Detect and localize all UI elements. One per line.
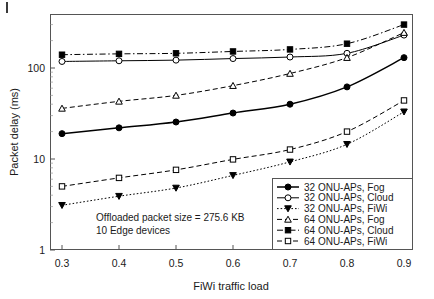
data-point-marker: [59, 184, 64, 189]
data-point-marker: [173, 57, 179, 63]
series-3: [59, 29, 408, 111]
data-point-marker: [116, 125, 122, 131]
data-point-marker: [344, 129, 349, 134]
legend-label: 64 ONU-APs, Cloud: [304, 225, 393, 236]
data-point-marker: [287, 147, 292, 152]
data-point-marker: [287, 101, 293, 107]
legend-label: 32 ONU-APs, FiWi: [304, 203, 387, 214]
data-point-marker: [230, 157, 235, 162]
data-point-marker: [285, 238, 290, 243]
data-point-marker: [173, 51, 178, 56]
x-tick-label: 0.6: [226, 257, 241, 269]
x-tick-label: 0.5: [169, 257, 184, 269]
data-point-marker: [116, 175, 121, 180]
data-point-marker: [230, 49, 235, 54]
figure-container: 110100 0.30.40.50.60.70.80.9 Packet dela…: [0, 0, 434, 299]
y-tick-label: 10: [33, 153, 45, 165]
legend-label: 64 ONU-APs, FiWi: [304, 236, 387, 247]
series-line: [62, 58, 404, 134]
data-point-marker: [287, 159, 294, 165]
annotation-line-2: 10 Edge devices: [96, 225, 170, 236]
data-point-marker: [287, 47, 292, 52]
data-point-marker: [285, 184, 291, 190]
y-tick-label: 100: [27, 62, 45, 74]
legend-label: 64 ONU-APs, Fog: [304, 214, 385, 225]
data-point-marker: [230, 173, 237, 179]
legend-label: 32 ONU-APs, Fog: [304, 182, 385, 193]
data-point-marker: [173, 167, 178, 172]
data-point-marker: [116, 51, 121, 56]
data-point-marker: [344, 84, 350, 90]
data-point-marker: [401, 55, 407, 61]
annotation-line-1: Offloaded packet size = 275.6 KB: [96, 212, 245, 223]
data-point-marker: [230, 110, 236, 116]
data-point-marker: [401, 29, 408, 35]
legend-label: 32 ONU-APs, Cloud: [304, 192, 393, 203]
x-tick-label: 0.7: [283, 257, 298, 269]
data-point-marker: [401, 22, 406, 27]
data-point-marker: [401, 98, 406, 103]
series-4: [59, 22, 406, 58]
series-line: [62, 33, 404, 109]
data-point-marker: [285, 195, 291, 201]
chart-legend[interactable]: 32 ONU-APs, Fog32 ONU-APs, Cloud32 ONU-A…: [273, 179, 413, 250]
data-point-marker: [401, 109, 408, 115]
data-point-marker: [59, 202, 66, 208]
data-point-marker: [173, 92, 180, 98]
data-point-marker: [59, 58, 65, 64]
x-tick-label: 0.4: [112, 257, 127, 269]
y-axis-title: Packet delay (ms): [8, 88, 20, 176]
data-point-marker: [230, 82, 237, 88]
data-point-marker: [344, 41, 349, 46]
data-point-marker: [173, 119, 179, 125]
data-point-marker: [230, 56, 236, 62]
y-tick-label: 1: [39, 244, 45, 256]
data-point-marker: [344, 142, 351, 148]
data-point-marker: [59, 131, 65, 137]
data-point-marker: [287, 54, 293, 60]
x-tick-label: 0.9: [397, 257, 412, 269]
x-axis-title: FiWi traffic load: [193, 280, 269, 292]
x-tick-label: 0.8: [340, 257, 355, 269]
chart-canvas: 110100 0.30.40.50.60.70.80.9 Packet dela…: [0, 0, 434, 299]
x-tick-label: 0.3: [55, 257, 70, 269]
series-0: [59, 55, 407, 137]
data-point-marker: [116, 58, 122, 64]
data-point-marker: [285, 228, 290, 233]
data-point-marker: [59, 52, 64, 57]
